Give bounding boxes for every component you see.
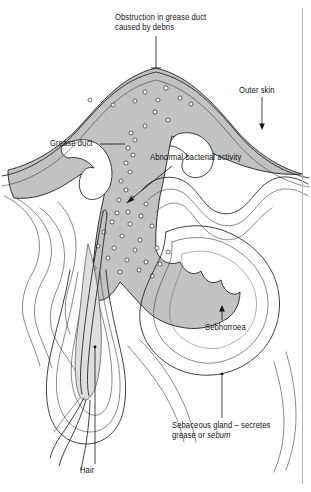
skin-cross-section-figure: .ln { fill:none; stroke:#1f1f1f; stroke-… (0, 0, 311, 492)
diagram-canvas: .ln { fill:none; stroke:#1f1f1f; stroke-… (0, 0, 311, 492)
deep-dermis-contours (128, 340, 296, 472)
hair-bulb-root (50, 244, 101, 470)
page-border-rule (302, 8, 303, 484)
dermis-contour-lines-left (4, 196, 76, 372)
label-sebum-italic: sebum (207, 431, 230, 440)
dermis-contour-lines-right (142, 177, 308, 240)
label-sebaceous-line1: Sebaceous gland – secretes (172, 421, 271, 430)
label-obstruction-in-grease-duct: Obstruction in grease duct caused by deb… (115, 13, 206, 33)
label-sebaceous-gland: Sebaceous gland – secretesgrease or sebu… (172, 421, 271, 441)
label-hair: Hair (80, 466, 94, 476)
inflamed-pustule-mass (8, 68, 302, 329)
label-sebhorroea: Sebhorroea (205, 323, 246, 333)
label-outer-skin: Outer skin (239, 86, 275, 96)
label-grease-duct: Grease duct (50, 139, 93, 149)
label-abnormal-bacterial-activity: Abnormal bacterial activity (150, 153, 241, 163)
label-sebaceous-line2-prefix: grease or (172, 431, 207, 440)
